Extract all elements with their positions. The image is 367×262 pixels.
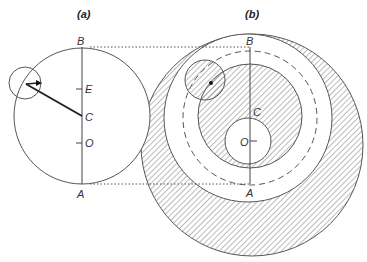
contact-point-dot bbox=[209, 81, 213, 85]
panel-b: (b) B C O A bbox=[141, 8, 363, 256]
label-b-top: B bbox=[246, 35, 253, 47]
label-a-bottom: A bbox=[76, 188, 84, 200]
panel-a-title: (a) bbox=[77, 8, 91, 20]
small-hatched-circle bbox=[185, 60, 225, 100]
panel-b-title: (b) bbox=[245, 8, 259, 20]
label-a-top: B bbox=[77, 35, 84, 47]
label-a-center: C bbox=[85, 111, 93, 123]
label-b-inner: O bbox=[240, 136, 249, 148]
diagram-canvas: (b) B C O A (a) B E C O A bbox=[0, 0, 367, 262]
panel-a: (a) B E C O A bbox=[9, 8, 150, 200]
label-a-upper-tick: E bbox=[85, 83, 93, 95]
label-b-center: C bbox=[253, 106, 261, 118]
label-a-lower-tick: O bbox=[85, 137, 94, 149]
label-b-bottom: A bbox=[245, 187, 253, 199]
